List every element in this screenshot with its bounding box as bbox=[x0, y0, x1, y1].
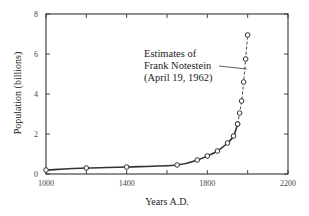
data-point-marker bbox=[215, 149, 220, 154]
annotation-text: Frank Notestein bbox=[144, 60, 212, 71]
data-point-marker bbox=[235, 122, 240, 127]
data-point-marker bbox=[243, 57, 248, 62]
data-point-marker bbox=[84, 166, 89, 171]
data-point-marker bbox=[175, 163, 180, 168]
population-chart: 1000140018002200 02468 Estimates ofFrank… bbox=[0, 0, 309, 216]
annotation: Estimates ofFrank Notestein(April 19, 19… bbox=[144, 48, 247, 84]
annotation-text: Estimates of bbox=[144, 48, 197, 59]
population-line bbox=[46, 124, 238, 170]
data-point-marker bbox=[225, 141, 230, 146]
y-tick-label: 8 bbox=[34, 10, 38, 19]
data-point-marker bbox=[195, 158, 200, 163]
y-tick-label: 2 bbox=[34, 130, 38, 139]
y-tick-label: 6 bbox=[34, 50, 38, 59]
y-tick-label: 4 bbox=[34, 90, 38, 99]
x-tick-labels: 1000140018002200 bbox=[38, 179, 296, 188]
plot-border bbox=[46, 14, 288, 174]
x-axis-title: Years A.D. bbox=[145, 196, 189, 207]
x-tick-label: 1400 bbox=[119, 179, 135, 188]
y-tick-label: 0 bbox=[34, 170, 38, 179]
x-tick-label: 2200 bbox=[280, 179, 296, 188]
data-point-marker bbox=[44, 168, 49, 173]
y-tick-labels: 02468 bbox=[34, 10, 38, 179]
axis-ticks bbox=[46, 14, 288, 174]
x-tick-label: 1000 bbox=[38, 179, 54, 188]
data-point-marker bbox=[245, 33, 250, 38]
y-axis-title: Population (billions) bbox=[12, 52, 24, 135]
plot-frame bbox=[46, 14, 288, 174]
data-point-marker bbox=[124, 165, 129, 170]
annotation-leader-line bbox=[219, 66, 247, 69]
data-point-marker bbox=[205, 154, 210, 159]
data-point-marker bbox=[239, 99, 244, 104]
data-point-marker bbox=[237, 111, 242, 116]
data-point-marker bbox=[241, 80, 246, 85]
annotation-text: (April 19, 1962) bbox=[144, 72, 213, 84]
x-tick-label: 1800 bbox=[199, 179, 215, 188]
data-point-marker bbox=[231, 134, 236, 139]
